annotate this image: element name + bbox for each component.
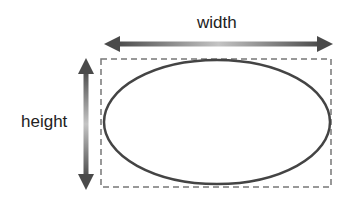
height-arrow-icon [78, 58, 94, 190]
ellipse-shape [104, 60, 330, 184]
ellipse-dimension-diagram: width height [0, 0, 352, 197]
width-label: width [197, 14, 237, 31]
diagram-canvas [0, 0, 352, 197]
height-label: height [21, 113, 67, 130]
width-arrow-icon [104, 36, 333, 52]
